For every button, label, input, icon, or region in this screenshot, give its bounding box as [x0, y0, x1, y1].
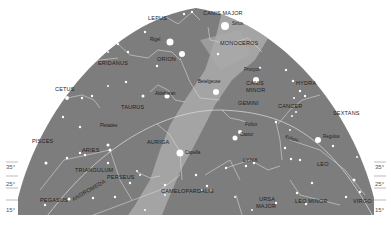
tick-left-25: 25° — [6, 181, 15, 187]
label-orion: ORION — [157, 56, 176, 62]
label-aries: ARIES — [82, 147, 100, 153]
tick-left-35: 35° — [6, 164, 15, 170]
label-castor: Castor — [240, 132, 253, 137]
label-taurus: TAURUS — [121, 104, 144, 110]
label-pegasus: PEGASUS — [40, 197, 68, 203]
label-auriga: AURIGA — [147, 139, 169, 145]
label-sirius: Sirius — [232, 21, 243, 26]
label-procyon: Procyon — [244, 67, 261, 72]
label-leo-minor: LEO MINOR — [295, 198, 328, 204]
tick-right-35: 35° — [375, 164, 384, 170]
label-camelopardalis: CAMELOPARDALIS — [161, 188, 214, 194]
label-capella: Capella — [185, 150, 200, 155]
label-lynx: LYNX — [243, 157, 258, 163]
label-monoceros: MONOCEROS — [220, 40, 258, 46]
label-eridanus: ERIDANUS — [98, 60, 128, 66]
label-canis-minor-1: CANIS — [246, 80, 264, 86]
label-cetus: CETUS — [55, 86, 75, 92]
label-cancer: CANCER — [278, 103, 302, 109]
label-canis-minor-2: MINOR — [246, 87, 265, 93]
tick-left-15: 15° — [6, 207, 15, 213]
label-betelgeuse: Betelgeuse — [198, 79, 221, 84]
label-virgo: VIRGO — [353, 198, 372, 204]
tick-right-15: 15° — [375, 207, 384, 213]
label-perseus: PERSEUS — [107, 174, 135, 180]
label-regulus: Regulus — [323, 134, 340, 139]
label-ursa-major-1: URSA — [259, 196, 275, 202]
label-pleiades: Pleiades — [100, 123, 117, 128]
label-triangulum: TRIANGULUM — [75, 167, 113, 173]
label-leo: LEO — [317, 161, 329, 167]
label-rigel: Rigel — [150, 37, 160, 42]
label-lepus: LEPUS — [148, 15, 167, 21]
label-pollux: Pollux — [245, 122, 257, 127]
label-sextans: SEXTANS — [333, 110, 360, 116]
label-ursa-major-2: MAJOR — [256, 203, 276, 209]
tick-right-25: 25° — [375, 181, 384, 187]
label-aldebaran: Aldebaran — [155, 91, 176, 96]
label-hydra: HYDRA — [296, 80, 316, 86]
label-gemini: GEMINI — [238, 100, 259, 106]
label-pisces: PISCES — [32, 138, 53, 144]
label-canis-major: CANIS MAJOR — [203, 10, 243, 16]
